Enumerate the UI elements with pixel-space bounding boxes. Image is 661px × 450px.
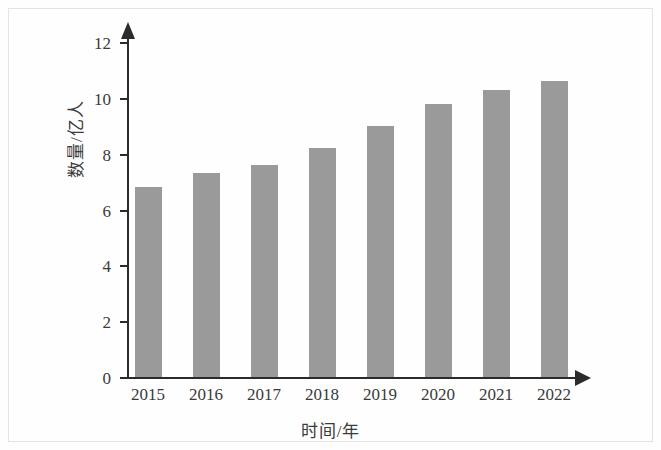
y-axis-line bbox=[127, 36, 129, 379]
x-axis-tick-label: 2018 bbox=[294, 386, 350, 403]
x-axis-tick-label: 2016 bbox=[178, 386, 234, 403]
y-axis-tick: 8 bbox=[120, 154, 128, 156]
y-axis-tick-label: 0 bbox=[103, 370, 112, 387]
bar bbox=[135, 187, 162, 377]
x-axis-tick-label: 2021 bbox=[468, 386, 524, 403]
chart-figure: 024681012 201520162017201820192020202120… bbox=[0, 0, 661, 450]
x-axis-title: 时间/年 bbox=[0, 417, 661, 442]
y-axis-tick-label: 6 bbox=[103, 202, 112, 219]
bar bbox=[425, 104, 452, 377]
bar bbox=[251, 165, 278, 377]
bar bbox=[367, 126, 394, 377]
bar bbox=[193, 173, 220, 377]
bar bbox=[309, 148, 336, 377]
plot-area: 024681012 201520162017201820192020202120… bbox=[0, 0, 661, 450]
x-axis-tick-label: 2017 bbox=[236, 386, 292, 403]
y-axis-tick-label: 4 bbox=[103, 258, 112, 275]
y-axis-tick: 4 bbox=[120, 265, 128, 267]
y-axis-tick-label: 10 bbox=[94, 91, 111, 108]
y-axis-tick-label: 8 bbox=[103, 146, 112, 163]
x-axis-tick-label: 2015 bbox=[120, 386, 176, 403]
y-axis-tick-label: 2 bbox=[103, 314, 112, 331]
y-axis-tick: 10 bbox=[120, 98, 128, 100]
y-axis-tick: 12 bbox=[120, 42, 128, 44]
y-axis-tick: 2 bbox=[120, 321, 128, 323]
x-axis-tick-label: 2020 bbox=[410, 386, 466, 403]
y-axis-tick: 0 bbox=[120, 377, 128, 379]
y-axis-tick-label: 12 bbox=[94, 35, 111, 52]
y-axis-title: 数量/亿人 bbox=[62, 100, 87, 178]
y-axis-tick: 6 bbox=[120, 210, 128, 212]
x-axis-tick-label: 2019 bbox=[352, 386, 408, 403]
x-axis-line bbox=[127, 377, 579, 379]
x-axis-arrow-icon bbox=[575, 370, 591, 386]
y-axis-arrow-icon bbox=[121, 22, 135, 39]
bar bbox=[483, 90, 510, 377]
x-axis-tick-label: 2022 bbox=[526, 386, 582, 403]
bar bbox=[541, 81, 568, 377]
